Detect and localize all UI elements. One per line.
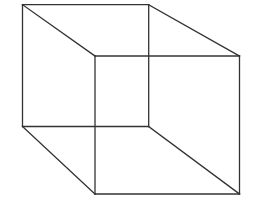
connector-bottom-left [23, 127, 96, 195]
connector-bottom-right [149, 127, 240, 195]
connector-top-right [149, 5, 240, 56]
connector-top-left [23, 5, 96, 56]
necker-cube-diagram [0, 0, 257, 207]
cube-wireframe [0, 0, 257, 207]
